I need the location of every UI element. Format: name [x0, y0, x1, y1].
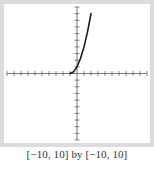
function-curve [70, 14, 91, 74]
graph-plot-area [4, 4, 150, 143]
window-range-caption: [−10, 10] by [−10, 10] [0, 148, 154, 160]
